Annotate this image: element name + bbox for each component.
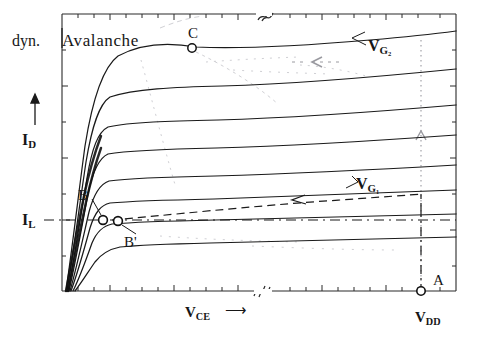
label-vg1-sub: G₁ — [368, 182, 380, 194]
label-avalanche: Avalanche — [62, 32, 139, 49]
label-vdd: VDD — [415, 310, 441, 327]
label-vdd-main: V — [415, 309, 426, 325]
curve-2 — [73, 214, 456, 291]
marker-point-b — [99, 216, 108, 225]
label-point-a: A — [433, 273, 444, 288]
x-axis-label-main: V — [185, 304, 196, 320]
curve-5 — [69, 135, 456, 291]
leader-vg2 — [352, 32, 366, 45]
y-axis-label-sub: D — [28, 138, 36, 150]
curve-6 — [68, 105, 456, 291]
x-axis-arrow-icon: ⟶ — [225, 303, 247, 318]
label-point-b-prime: B' — [124, 235, 137, 250]
curve-8-vg2 — [66, 31, 456, 291]
marker-point-b-prime — [114, 217, 123, 226]
label-point-b: B — [78, 188, 88, 203]
leader-lines — [92, 32, 366, 234]
characteristic-curves-svg — [0, 0, 478, 350]
faint-artifact-strokes — [141, 16, 400, 250]
right-border-ticks — [450, 50, 456, 266]
x-axis-label: VCE — [185, 305, 210, 322]
label-vg2-main: V — [368, 37, 380, 54]
label-vg2-sub: G₂ — [380, 44, 392, 56]
label-vg1-main: V — [356, 175, 368, 192]
label-vg1: VG₁ — [356, 176, 379, 194]
y-direction-arrow-icon — [31, 94, 39, 125]
label-il-sub: L — [28, 218, 35, 230]
label-vg2: VG₂ — [368, 38, 391, 56]
marker-point-a — [417, 287, 425, 295]
marker-point-c — [188, 44, 196, 52]
label-dyn: dyn. — [12, 33, 40, 49]
y-axis-label: ID — [22, 132, 36, 150]
y-axis-ticks — [62, 50, 70, 256]
label-point-c: C — [188, 26, 198, 41]
label-il: IL — [22, 212, 36, 230]
curve-4-vg1 — [70, 165, 456, 291]
transistor-output-characteristics-figure: dyn. Avalanche ID IL VCE ⟶ VDD A B B' C … — [0, 0, 478, 350]
faint-left-arrow-upper-icon — [292, 57, 344, 67]
characteristic-curves — [66, 31, 456, 291]
vdd-vertical-dotted-line — [416, 40, 426, 281]
break-mask-top — [256, 11, 272, 16]
x-axis-label-sub: CE — [196, 311, 210, 322]
label-vdd-sub: DD — [426, 316, 441, 327]
leader-b-prime — [122, 225, 136, 234]
break-mask-bottom — [254, 289, 272, 294]
